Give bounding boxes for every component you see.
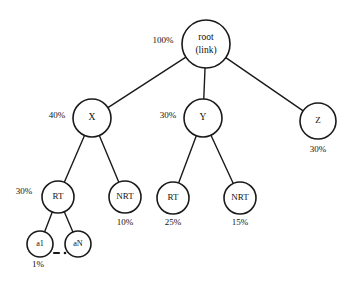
percent-label-z: 30% (310, 144, 327, 154)
percent-label-x: 40% (49, 110, 66, 120)
edge-y-to-nrt-y (211, 135, 233, 183)
percent-label-nrt-x: 10% (117, 217, 134, 227)
node-sublabel-root: (link) (195, 45, 216, 56)
node-root[interactable]: root(link) (182, 20, 230, 68)
node-x[interactable]: X (73, 99, 111, 137)
edge-root-to-y (204, 68, 205, 99)
node-nrt-x[interactable]: NRT (109, 181, 141, 213)
node-label-rt-y: RT (168, 192, 179, 202)
node-aN[interactable]: aN (65, 231, 91, 257)
percent-labels-layer: 100%40%30%30%30%10%25%15%1% (16, 35, 327, 269)
node-label-z: Z (315, 115, 321, 125)
percent-label-rt-y: 25% (165, 217, 182, 227)
percent-label-y: 30% (160, 110, 177, 120)
nodes-layer: root(link)XYZRTNRTRTNRTa1aN (27, 20, 336, 257)
node-label-nrt-y: NRT (231, 192, 249, 202)
node-label-a1: a1 (36, 239, 44, 248)
node-z[interactable]: Z (300, 103, 336, 139)
ellipsis-dot-icon (64, 252, 67, 255)
tree-diagram: root(link)XYZRTNRTRTNRTa1aN 100%40%30%30… (0, 0, 355, 282)
percent-label-rt-x: 30% (16, 186, 33, 196)
node-label-root: root (198, 32, 214, 42)
node-y[interactable]: Y (184, 99, 222, 137)
percent-label-root: 100% (153, 35, 175, 45)
node-label-nrt-x: NRT (116, 191, 134, 201)
node-nrt-y[interactable]: NRT (224, 182, 256, 214)
node-rt-x[interactable]: RT (42, 181, 74, 213)
edge-x-to-nrt-x (99, 136, 119, 183)
node-label-y: Y (200, 112, 207, 122)
node-label-x: X (89, 112, 96, 122)
percent-label-nrt-y: 15% (232, 217, 249, 227)
tree-diagram-canvas: root(link)XYZRTNRTRTNRTa1aN 100%40%30%30… (0, 0, 355, 282)
edge-x-to-rt-x (64, 135, 84, 182)
node-a1[interactable]: a1 (27, 231, 53, 257)
edge-y-to-rt-y (179, 136, 197, 183)
percent-label-a1: 1% (32, 259, 45, 269)
node-label-aN: aN (73, 239, 83, 248)
node-label-rt-x: RT (53, 191, 64, 201)
node-rt-y[interactable]: RT (157, 182, 189, 214)
edge-root-to-x (108, 57, 186, 108)
node-circle-root[interactable] (182, 20, 230, 68)
ellipsis-layer (54, 252, 66, 255)
edge-rt-x-to-aN (64, 212, 73, 232)
edge-rt-x-to-a1 (45, 212, 53, 232)
edge-root-to-z (226, 58, 303, 111)
